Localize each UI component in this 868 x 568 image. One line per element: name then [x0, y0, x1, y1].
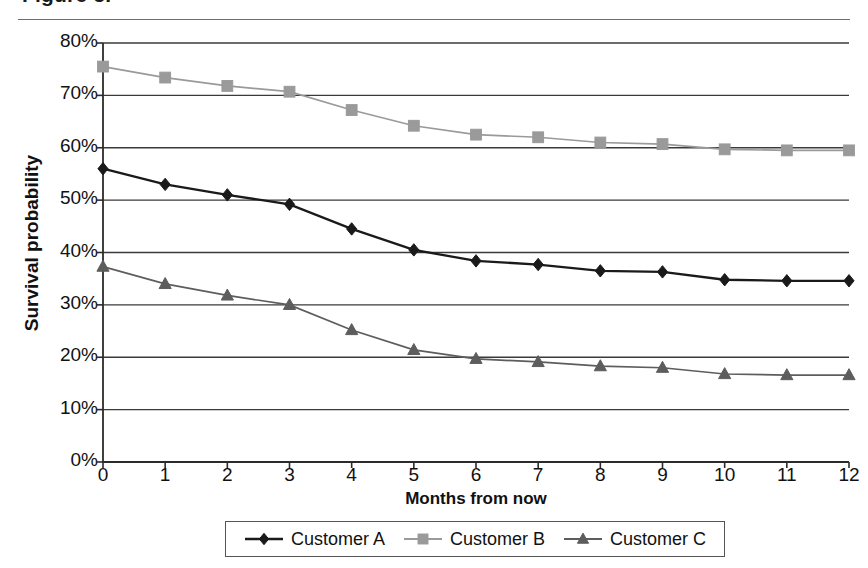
legend-marker-triangle-icon: [563, 531, 603, 547]
data-point-marker: [533, 258, 543, 270]
x-axis-tick-label: 2: [207, 464, 247, 486]
data-point-marker: [160, 72, 171, 83]
data-point-marker: [98, 61, 109, 72]
data-point-marker: [159, 278, 171, 289]
data-point-marker: [284, 86, 295, 97]
data-point-marker: [720, 274, 730, 286]
data-point-marker: [259, 533, 268, 544]
series-customer-c: [97, 260, 855, 379]
data-point-marker: [657, 139, 668, 150]
x-axis-tick-label: 7: [518, 464, 558, 486]
series-customer-a: [98, 163, 854, 287]
data-point-marker: [471, 129, 482, 140]
data-point-marker: [222, 189, 232, 201]
series-customer-b: [98, 61, 855, 156]
x-axis-tick-label: 4: [332, 464, 372, 486]
data-point-marker: [346, 324, 358, 335]
x-axis-title: Months from now: [103, 489, 849, 509]
data-point-marker: [470, 352, 482, 363]
y-axis-tick-label: 10%: [28, 397, 98, 419]
header-divider-rule: [18, 19, 850, 20]
x-axis-tick-label: 10: [705, 464, 745, 486]
series-line: [103, 67, 849, 151]
chart-legend: Customer ACustomer BCustomer C: [225, 521, 725, 557]
data-point-marker: [719, 144, 730, 155]
x-axis-tick-label: 11: [767, 464, 807, 486]
legend-marker-square-icon: [403, 531, 443, 547]
data-point-marker: [408, 120, 419, 131]
x-axis-tick-label: 8: [580, 464, 620, 486]
x-axis-tick-label: 5: [394, 464, 434, 486]
data-point-marker: [781, 369, 793, 380]
data-point-marker: [782, 275, 792, 287]
data-point-marker: [781, 145, 792, 156]
legend-item[interactable]: Customer B: [394, 529, 554, 550]
data-point-marker: [656, 361, 668, 372]
series-line: [103, 267, 849, 375]
data-point-marker: [97, 260, 109, 271]
data-point-marker: [471, 255, 481, 267]
data-point-marker: [657, 266, 667, 278]
data-point-marker: [346, 105, 357, 116]
y-axis-tick-label: 80%: [28, 30, 98, 52]
data-point-marker: [221, 289, 233, 300]
x-axis-tick-label: 0: [83, 464, 123, 486]
legend-marker-diamond-icon: [244, 531, 284, 547]
y-axis-tick-label: 30%: [28, 292, 98, 314]
data-point-marker: [222, 81, 233, 92]
data-point-marker: [283, 298, 295, 309]
y-axis-tick-label: 50%: [28, 187, 98, 209]
data-point-marker: [844, 275, 854, 287]
legend-label: Customer C: [610, 529, 706, 550]
y-axis-tick-label: 60%: [28, 135, 98, 157]
x-axis-tick-label: 9: [643, 464, 683, 486]
x-axis-tick-label: 12: [829, 464, 868, 486]
figure-container: Figure 5. Survival probability Months fr…: [0, 0, 868, 568]
data-point-marker: [594, 360, 606, 371]
data-point-marker: [595, 265, 605, 277]
data-point-marker: [160, 178, 170, 190]
legend-item[interactable]: Customer C: [554, 529, 715, 550]
data-point-marker: [284, 198, 294, 210]
legend-item[interactable]: Customer A: [235, 529, 394, 550]
y-axis-tick-label: 40%: [28, 240, 98, 262]
y-axis-tick-label: 70%: [28, 82, 98, 104]
data-point-marker: [532, 356, 544, 367]
data-point-marker: [843, 369, 855, 380]
x-axis-tick-label: 1: [145, 464, 185, 486]
data-point-marker: [533, 132, 544, 143]
data-point-marker: [418, 534, 428, 544]
legend-label: Customer B: [450, 529, 545, 550]
data-point-marker: [98, 163, 108, 175]
data-point-marker: [844, 145, 855, 156]
data-point-marker: [719, 368, 731, 379]
figure-title-strip: Figure 5.: [0, 0, 868, 14]
series-line: [103, 169, 849, 281]
data-point-marker: [347, 223, 357, 235]
data-point-marker: [408, 344, 420, 355]
x-axis-tick-label: 3: [270, 464, 310, 486]
y-axis-tick-label: 20%: [28, 344, 98, 366]
x-axis-tick-label: 6: [456, 464, 496, 486]
data-point-marker: [409, 244, 419, 256]
data-point-marker: [595, 137, 606, 148]
legend-label: Customer A: [291, 529, 385, 550]
